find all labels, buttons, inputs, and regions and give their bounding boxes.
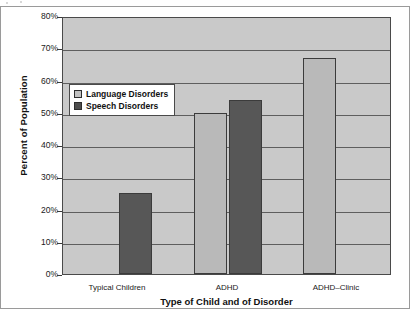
gridline <box>63 50 390 51</box>
bar-speech-0 <box>119 193 152 274</box>
y-axis-tick-mark <box>57 275 62 276</box>
y-axis-tick-label: 10% <box>0 237 58 247</box>
legend: Language Disorders Speech Disorders <box>69 84 175 116</box>
legend-item-speech: Speech Disorders <box>74 100 168 112</box>
legend-label-speech: Speech Disorders <box>86 101 158 111</box>
x-axis-category-label: ADHD <box>172 283 282 292</box>
y-axis-tick-label: 30% <box>0 172 58 182</box>
legend-label-language: Language Disorders <box>86 89 168 99</box>
scan-speckle <box>20 1 22 3</box>
bar-language-2 <box>303 58 336 274</box>
x-axis-category-label: ADHD–Clinic <box>281 283 391 292</box>
legend-item-language: Language Disorders <box>74 88 168 100</box>
legend-swatch-speech-icon <box>74 102 82 110</box>
bar-speech-1 <box>229 100 262 274</box>
x-axis-category-label: Typical Children <box>62 283 172 292</box>
y-axis-tick-label: 80% <box>0 11 58 21</box>
y-axis-tick-label: 20% <box>0 205 58 215</box>
y-axis-tick-label: 50% <box>0 108 58 118</box>
y-axis-tick-label: 60% <box>0 76 58 86</box>
chart-figure: Percent of Population 0%10%20%30%40%50%6… <box>0 0 415 313</box>
scan-speckle <box>6 2 8 4</box>
y-axis-tick-label: 0% <box>0 269 58 279</box>
y-axis-tick-label: 40% <box>0 140 58 150</box>
bar-language-1 <box>194 113 227 274</box>
x-axis-title: Type of Child and of Disorder <box>62 296 391 307</box>
legend-swatch-language-icon <box>74 90 82 98</box>
y-axis-tick-label: 70% <box>0 43 58 53</box>
plot-area: Language Disorders Speech Disorders <box>62 17 391 275</box>
